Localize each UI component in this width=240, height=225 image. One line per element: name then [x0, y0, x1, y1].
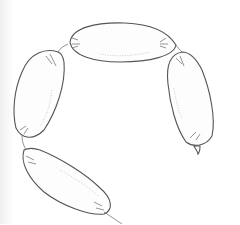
link-tie	[176, 45, 182, 52]
link-tie	[58, 44, 68, 52]
sausage-bottom	[23, 149, 122, 225]
sausage-left	[14, 51, 64, 138]
sausage-top	[70, 23, 176, 62]
sausage-chain-illustration	[0, 0, 240, 224]
sausage-right	[168, 52, 214, 154]
link-tie	[22, 136, 26, 150]
